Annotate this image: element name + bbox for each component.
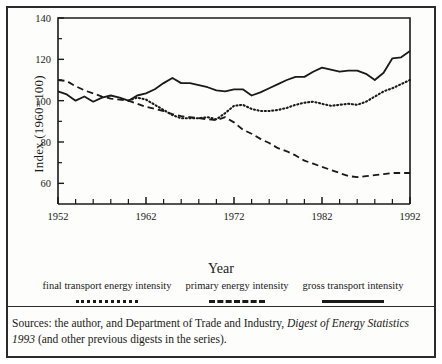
figure-container: Index (1960=100) 60801001201401952196219… — [0, 0, 442, 364]
legend-item-final-transport-energy-intensity: final transport energy intensity — [43, 280, 172, 303]
source-divider — [8, 306, 434, 307]
line-chart-plot: 608010012014019521962197219821992 — [8, 8, 434, 258]
x-axis-title: Year — [8, 261, 434, 277]
svg-text:1982: 1982 — [312, 211, 333, 222]
legend-label: primary energy intensity — [186, 280, 289, 292]
chart-legend: final transport energy intensity primary… — [18, 280, 428, 303]
source-note: Sources: the author, and Department of T… — [12, 316, 430, 347]
svg-text:1972: 1972 — [224, 211, 245, 222]
legend-swatch-dashed-icon — [209, 294, 265, 303]
chart-area: Index (1960=100) 60801001201401952196219… — [8, 8, 434, 304]
legend-label: final transport energy intensity — [43, 280, 172, 292]
legend-swatch-dotted-icon — [76, 294, 138, 303]
legend-swatch-solid-icon — [322, 294, 384, 303]
svg-text:1952: 1952 — [48, 211, 69, 222]
svg-text:140: 140 — [35, 13, 51, 24]
source-text-lead: Sources: the author, and Department of T… — [12, 317, 287, 329]
y-axis-title: Index (1960=100) — [31, 49, 47, 199]
svg-text:1962: 1962 — [136, 211, 157, 222]
legend-item-gross-transport-intensity: gross transport intensity — [303, 280, 404, 303]
svg-text:1992: 1992 — [400, 211, 421, 222]
source-text-tail: (and other previous digests in the serie… — [35, 333, 227, 345]
legend-label: gross transport intensity — [303, 280, 404, 292]
legend-item-primary-energy-intensity: primary energy intensity — [186, 280, 289, 303]
